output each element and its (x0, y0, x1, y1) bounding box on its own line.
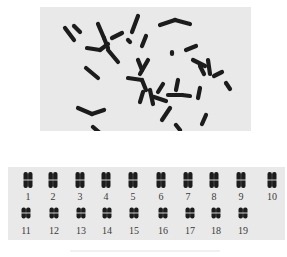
chromosome (226, 83, 230, 89)
chromosome-pair-11 (21, 208, 31, 219)
chromosome (112, 33, 122, 38)
chromosome-pair-9 (236, 172, 246, 188)
chromosome-pair-6 (156, 172, 166, 188)
chromosome-label-3: 3 (78, 192, 83, 202)
chromosome (65, 28, 74, 40)
chromosome-label-12: 12 (49, 226, 59, 236)
chromosome (202, 115, 206, 124)
chromosome-pair-16 (158, 208, 168, 219)
chromosome (86, 68, 98, 78)
chromosome (93, 127, 101, 131)
chromosome-label-18: 18 (211, 226, 221, 236)
chromosome-label-5: 5 (131, 192, 136, 202)
chromosome-pair-14 (102, 208, 112, 219)
chromosome (128, 78, 142, 80)
figure-caption-remnant (70, 250, 220, 252)
chromosome-pair-4 (101, 172, 111, 188)
chromosome-label-6: 6 (159, 192, 164, 202)
chromosome-label-9: 9 (239, 192, 244, 202)
chromosome-label-10: 10 (267, 192, 277, 202)
chromosome-label-15: 15 (129, 226, 139, 236)
karyotype-panel: 12345678910111213141516171819 (8, 167, 285, 240)
chromosome (160, 20, 175, 25)
chromosome (74, 26, 80, 32)
chromosome (78, 108, 92, 114)
chromosome-pair-1 (23, 172, 33, 188)
chromosome-pair-7 (183, 172, 193, 188)
chromosome-label-16: 16 (158, 226, 168, 236)
chromosome (108, 50, 118, 62)
chromosome-pair-8 (209, 172, 219, 188)
chromosome (158, 84, 163, 92)
chromosome-pair-10 (267, 172, 277, 188)
chromosome (154, 97, 166, 101)
chromosome (175, 20, 190, 24)
chromosome (214, 72, 222, 76)
chromosome-pair-13 (76, 208, 86, 219)
chromosome-label-11: 11 (21, 226, 31, 236)
chromosome (162, 108, 170, 120)
metaphase-spread-panel (40, 7, 251, 131)
metaphase-chromosomes (40, 7, 251, 131)
chromosome-label-1: 1 (26, 192, 31, 202)
chromosome (182, 95, 190, 96)
chromosome (142, 80, 146, 90)
chromosome (208, 60, 210, 74)
chromosome-pair-3 (75, 172, 85, 188)
chromosome-pair-17 (185, 208, 195, 219)
chromosome-label-7: 7 (186, 192, 191, 202)
chromosome (132, 16, 138, 32)
chromosome-pair-5 (128, 172, 138, 188)
chromosome-pair-15 (129, 208, 139, 219)
chromosome (128, 40, 130, 42)
chromosome-pair-19 (238, 208, 248, 219)
chromosome-label-13: 13 (76, 226, 86, 236)
chromosome-pair-12 (49, 208, 59, 219)
chromosome (92, 110, 104, 114)
chromosome-label-2: 2 (51, 192, 56, 202)
chromosome-label-14: 14 (102, 226, 112, 236)
chromosome-pair-18 (211, 208, 221, 219)
chromosome-label-19: 19 (238, 226, 248, 236)
chromosome-label-8: 8 (212, 192, 217, 202)
chromosome-label-4: 4 (104, 192, 109, 202)
chromosome (176, 80, 178, 90)
chromosome (176, 125, 180, 130)
chromosome-pair-2 (48, 172, 58, 188)
chromosome-label-17: 17 (185, 226, 195, 236)
chromosome (98, 24, 104, 38)
chromosome (186, 46, 196, 50)
chromosome (198, 88, 200, 98)
chromosome (140, 92, 143, 102)
chromosome (142, 36, 146, 46)
